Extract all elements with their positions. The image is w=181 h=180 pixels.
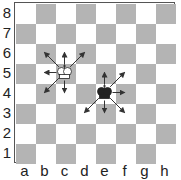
file-label: c xyxy=(55,162,75,180)
piece-overlay xyxy=(14,2,175,163)
move-arrow xyxy=(45,78,59,92)
rank-label: 1 xyxy=(1,143,13,163)
file-label: f xyxy=(115,162,135,180)
rank-label: 7 xyxy=(1,23,13,43)
rank-label: 5 xyxy=(1,63,13,83)
move-arrow xyxy=(110,98,124,112)
file-label: h xyxy=(155,162,175,180)
file-label: b xyxy=(35,162,55,180)
file-label: g xyxy=(135,162,155,180)
move-arrow xyxy=(85,98,99,112)
rank-label: 6 xyxy=(1,43,13,63)
move-arrow xyxy=(70,53,84,67)
file-label: a xyxy=(15,162,35,180)
rank-label: 8 xyxy=(1,3,13,23)
move-arrow xyxy=(45,53,59,67)
rank-label: 3 xyxy=(1,103,13,123)
file-label: e xyxy=(95,162,115,180)
black-king-icon xyxy=(98,85,112,99)
rank-label: 2 xyxy=(1,123,13,143)
file-label: d xyxy=(75,162,95,180)
white-king-icon xyxy=(58,65,72,79)
move-arrow xyxy=(110,73,124,87)
rank-label: 4 xyxy=(1,83,13,103)
